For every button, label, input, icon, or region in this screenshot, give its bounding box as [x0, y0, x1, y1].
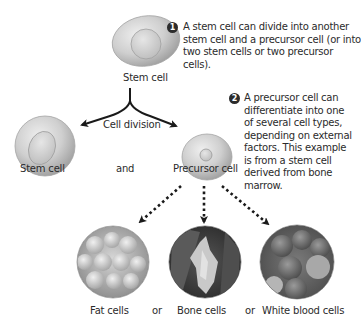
- fat-cells-label: Fat cells: [90, 305, 129, 316]
- step-2-badge: 2: [229, 93, 240, 104]
- step-1-note: A stem cell can divide into another stem…: [183, 21, 361, 71]
- cell-division-label: Cell division: [103, 119, 161, 130]
- daughter-stem-cell-label: Stem cell: [20, 163, 65, 174]
- bone-cells-image: [169, 226, 241, 300]
- top-stem-cell-label: Stem cell: [123, 72, 168, 83]
- precursor-cell-label: Precursor cell: [173, 163, 238, 174]
- white-blood-cells-label: White blood cells: [262, 305, 344, 316]
- or-connector-1: or: [152, 305, 162, 316]
- step-2-note: A precursor cell can differentiate into …: [244, 92, 354, 192]
- top-stem-cell: [108, 10, 184, 71]
- bone-cells-label: Bone cells: [177, 305, 226, 316]
- fat-cells-image: [77, 226, 149, 298]
- or-connector-2: or: [245, 305, 255, 316]
- and-connector: and: [116, 163, 134, 174]
- step-1-badge: 1: [167, 22, 178, 33]
